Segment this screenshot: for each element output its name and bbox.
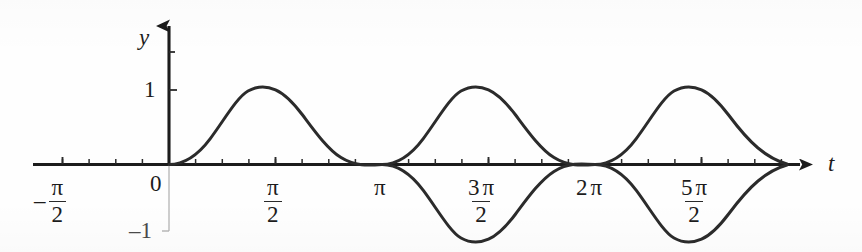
x-tick-label-neg-half-pi: – π 2 — [34, 176, 66, 227]
x-axis — [33, 157, 800, 165]
x-tick-label-two-pi: 2 π — [576, 176, 602, 199]
fraction-denominator: 2 — [472, 201, 490, 227]
fraction-numerator: π — [264, 176, 282, 201]
fraction-numerator: 3 π — [465, 176, 497, 201]
fraction-denominator: 2 — [49, 201, 67, 227]
two-pi-coefficient: 2 — [576, 176, 588, 199]
fraction-half-pi: π 2 — [264, 176, 282, 227]
fraction-five-half-pi: 5 π 2 — [678, 176, 710, 227]
minus-sign: – — [34, 189, 46, 212]
numerator-coefficient: 5 — [681, 176, 693, 200]
sine-envelope-figure: y t 1 –1 0 – π 2 π 2 π 3 π — [0, 0, 862, 252]
fraction-numerator: 5 π — [678, 176, 710, 201]
x-tick-label-pi: π — [374, 176, 386, 199]
y-axis — [162, 26, 177, 231]
plot-canvas — [0, 0, 862, 252]
fraction-three-half-pi: 3 π 2 — [465, 176, 497, 227]
y-axis-label: y — [139, 26, 149, 49]
x-tick-label-five-half-pi: 5 π 2 — [678, 176, 710, 227]
x-tick-label-half-pi: π 2 — [264, 176, 282, 227]
x-axis-label: t — [828, 152, 834, 175]
y-tick-label-one: 1 — [144, 78, 156, 101]
x-tick-label-three-half-pi: 3 π 2 — [465, 176, 497, 227]
pi-symbol: π — [591, 176, 603, 199]
curve-upper-envelope — [169, 87, 787, 165]
y-tick-label-neg-one: –1 — [129, 219, 152, 242]
numerator-coefficient: 3 — [468, 176, 480, 200]
pi-symbol: π — [696, 176, 708, 200]
fraction-denominator: 2 — [685, 201, 703, 227]
origin-label: 0 — [150, 172, 162, 195]
fraction-neg-half-pi: π 2 — [49, 176, 67, 227]
fraction-denominator: 2 — [264, 201, 282, 227]
fraction-numerator: π — [49, 176, 67, 201]
pi-symbol: π — [483, 176, 495, 200]
